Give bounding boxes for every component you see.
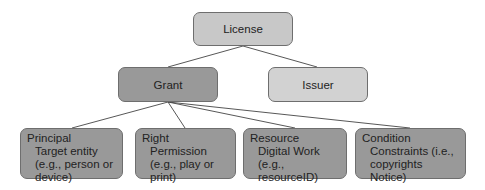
grant-node: Grant <box>118 67 218 102</box>
grant-label: Grant <box>154 79 183 91</box>
edge-grant-condition <box>168 102 410 128</box>
principal-title: Principal <box>27 132 116 145</box>
edge-grant-principal <box>72 102 168 128</box>
issuer-node: Issuer <box>268 67 368 102</box>
license-label: License <box>223 23 263 35</box>
edge-grant-resource <box>168 102 295 128</box>
right-node: Right Permission (e.g., play or print) <box>135 128 236 179</box>
principal-desc: Target entity (e.g., person or device) <box>27 145 116 184</box>
edge-license-issuer <box>243 46 317 67</box>
edge-license-grant <box>168 46 243 67</box>
license-node: License <box>193 12 293 46</box>
right-title: Right <box>142 132 229 145</box>
issuer-label: Issuer <box>302 79 333 91</box>
condition-title: Condition <box>362 132 459 145</box>
condition-desc: Constraints (i.e., copyrights Notice) <box>362 145 459 184</box>
resource-desc: Digital Work (e.g., resourceID) <box>250 145 340 184</box>
edge-grant-right <box>168 102 185 128</box>
condition-node: Condition Constraints (i.e., copyrights … <box>355 128 466 179</box>
resource-node: Resource Digital Work (e.g., resourceID) <box>243 128 347 179</box>
right-desc: Permission (e.g., play or print) <box>142 145 229 184</box>
principal-node: Principal Target entity (e.g., person or… <box>20 128 123 179</box>
resource-title: Resource <box>250 132 340 145</box>
